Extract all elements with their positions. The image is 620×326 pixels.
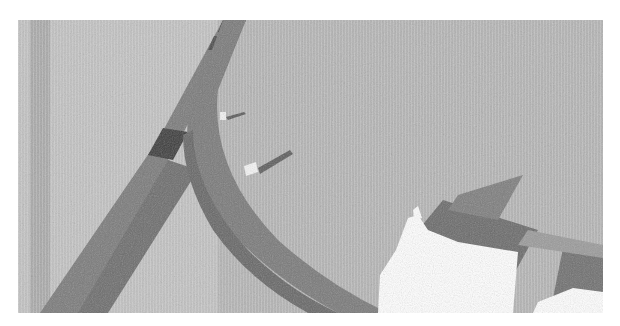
scene-image (18, 20, 603, 313)
scene-canvas (18, 20, 603, 313)
